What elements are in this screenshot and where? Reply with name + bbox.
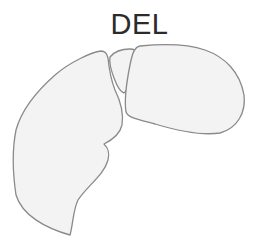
liver-lobes-diagram	[0, 0, 255, 244]
left-lobe-shape	[13, 51, 122, 235]
right-lobe-shape	[125, 45, 244, 134]
diagram-canvas: DEL	[0, 0, 255, 244]
